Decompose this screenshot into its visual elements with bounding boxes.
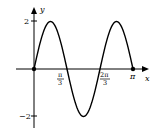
y-tick-label-neg2: −2 — [19, 112, 31, 121]
x-tick-label-pi-over-3: π 3 — [57, 71, 64, 87]
x-tick-label-2pi-over-3: 2π 3 — [100, 71, 110, 87]
svg-text:3: 3 — [103, 79, 107, 87]
y-axis-label: y — [39, 5, 45, 14]
x-axis-arrow-icon — [142, 66, 149, 72]
svg-text:2π: 2π — [100, 71, 109, 79]
y-axis-arrow-icon — [31, 7, 37, 14]
sine-chart: y x 2 −2 π 3 2π 3 π — [0, 0, 158, 135]
origin-point — [32, 67, 36, 71]
svg-text:π: π — [58, 71, 63, 79]
pi-point — [131, 67, 135, 71]
x-axis-label: x — [145, 74, 150, 83]
x-tick-label-pi: π — [129, 72, 136, 81]
svg-text:3: 3 — [58, 79, 62, 87]
y-tick-label-2: 2 — [24, 17, 29, 26]
